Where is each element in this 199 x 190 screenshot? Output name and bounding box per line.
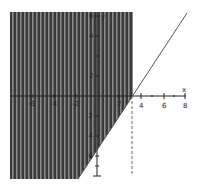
svg-text:8: 8 [183,102,187,110]
svg-text:-6: -6 [28,100,36,108]
y-tick-label: 2 [89,72,93,80]
svg-text:-2: -2 [72,100,79,108]
svg-text:2: 2 [89,72,93,80]
x-tick-label: -6 [28,100,36,108]
svg-text:2: 2 [117,100,121,108]
x-tick-label: -2 [72,100,79,108]
x-tick-label: 6 [162,102,167,110]
y-tick-label: -4 [86,132,94,140]
y-tick-label: -6 [86,152,94,160]
y-tick-label: 6 [89,12,94,20]
x-axis-label: x [182,86,186,94]
x-tick-label: -4 [50,100,58,108]
y-tick-label: -2 [86,112,93,120]
svg-text:-6: -6 [86,152,94,160]
svg-text:-4: -4 [86,132,94,140]
svg-text:-4: -4 [50,100,58,108]
x-tick-label: 4 [139,102,144,110]
svg-text:4: 4 [89,32,94,40]
graph: x y -6 -4 -2 2 4 6 8 6 4 2 -2 -4 -6 [0,0,199,190]
svg-text:6: 6 [89,12,94,20]
x-tick-label: 8 [183,102,187,110]
svg-text:6: 6 [162,102,167,110]
svg-text:-2: -2 [86,112,93,120]
y-axis-label: y [101,13,105,21]
x-tick-label: 2 [117,100,121,108]
y-tick-label: 4 [89,32,94,40]
svg-text:4: 4 [139,102,144,110]
